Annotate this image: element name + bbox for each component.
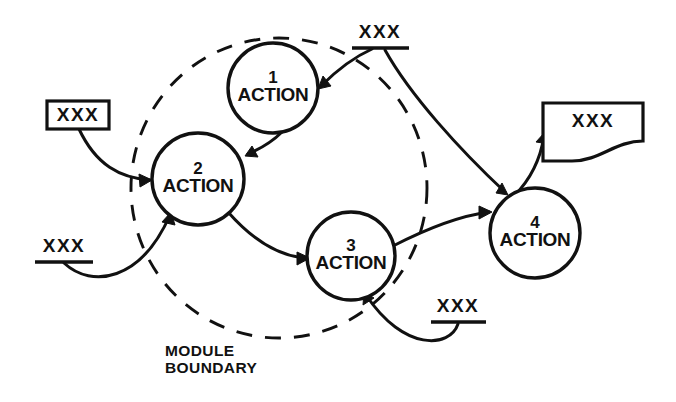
flow-store-top-to-1 [321,49,372,86]
module-boundary-label-line1: MODULE [165,342,235,359]
store-bottom-right-group: XXX [431,295,486,322]
process-2-label: ACTION [162,175,233,196]
process-node-2: 2 ACTION [152,133,244,225]
data-flow-diagram: XXX XXX XXX XXX XXX 1 ACTION [0,0,676,402]
store-top-group: XXX [352,21,409,48]
entity-document-label: XXX [572,110,615,131]
process-node-3: 3 ACTION [307,212,395,300]
flow-entity-left-to-2-arrowhead [139,174,152,187]
entity-document-group: XXX [543,103,643,161]
entity-left-label: XXX [57,104,100,125]
store-top-label: XXX [359,21,402,42]
module-boundary-label-line2: BOUNDARY [165,359,257,376]
store-bottom-right-label: XXX [437,295,480,316]
flow-3-to-4 [393,212,489,246]
flow-store-top-to-4 [385,50,505,192]
flow-3-to-4-arrowhead [479,206,492,219]
entity-left-group: XXX [47,101,109,129]
store-left-lower-label: XXX [43,235,86,256]
process-1-label: ACTION [237,84,308,105]
store-left-lower-group: XXX [35,235,93,262]
process-node-4: 4 ACTION [490,188,580,278]
flow-2-to-3 [228,212,307,258]
process-4-label: ACTION [499,229,570,250]
flow-entity-left-to-2 [79,129,150,180]
process-3-label: ACTION [315,252,386,273]
process-node-1: 1 ACTION [228,43,318,133]
diagram-canvas: XXX XXX XXX XXX XXX 1 ACTION [0,0,676,402]
module-boundary-caption: MODULE BOUNDARY [165,342,257,376]
